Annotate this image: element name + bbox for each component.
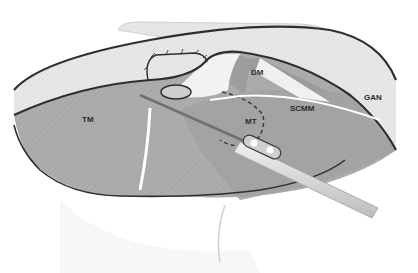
vessel-opening (161, 85, 191, 99)
surgical-illustration: TM DM MT SCMM GAN (0, 0, 418, 273)
label-gan: GAN (364, 93, 382, 102)
diagram-canvas: TM DM MT SCMM GAN (0, 0, 418, 273)
label-scmm: SCMM (290, 104, 315, 113)
label-mt: MT (245, 117, 257, 126)
label-tm: TM (82, 115, 94, 124)
body-silhouette (60, 200, 260, 273)
label-dm: DM (251, 68, 264, 77)
